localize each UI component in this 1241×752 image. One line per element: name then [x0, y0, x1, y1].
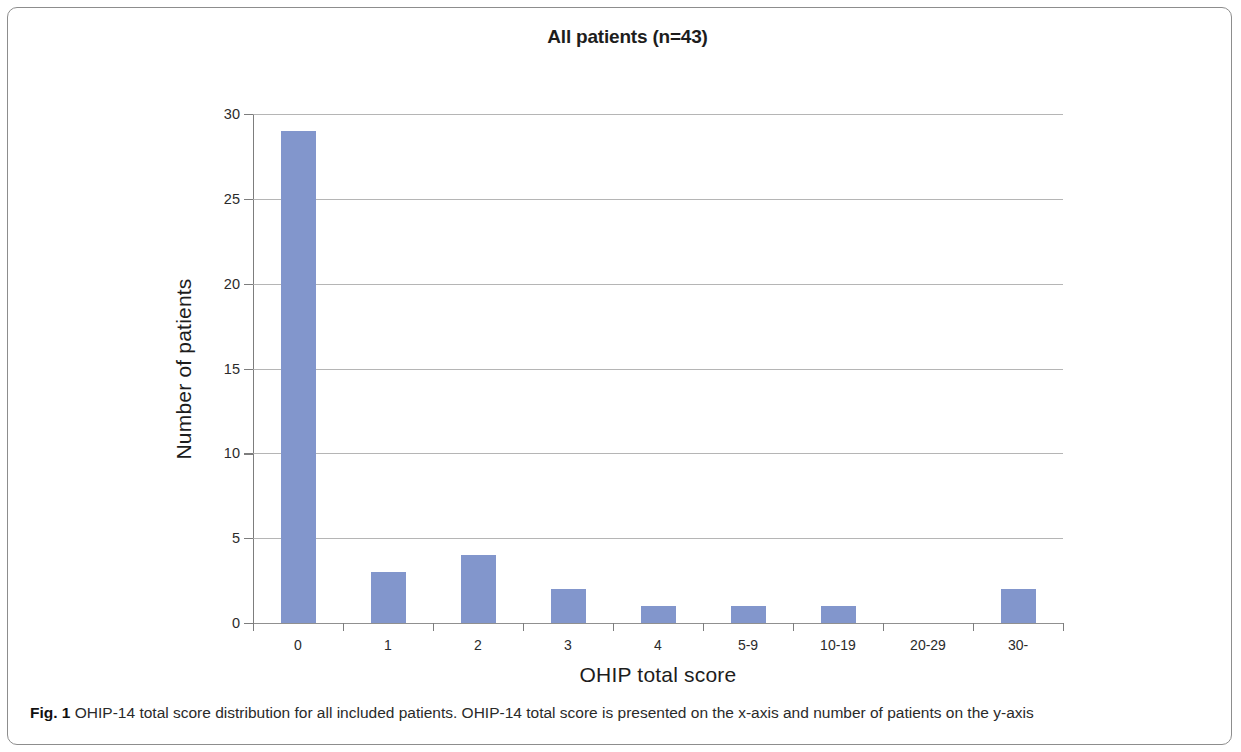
x-axis-tick [343, 623, 344, 631]
y-axis-tick [244, 538, 253, 539]
gridline [253, 538, 1063, 539]
y-axis-tick [244, 114, 253, 115]
chart-title: All patients (n=43) [8, 26, 1233, 48]
chart-title-text: All patients (n=43) [547, 26, 707, 47]
y-axis-tick [244, 453, 253, 454]
gridline [253, 369, 1063, 370]
x-axis-tick-label: 20-29 [910, 637, 946, 653]
y-axis-title-text: Number of patients [172, 278, 196, 459]
gridline [253, 199, 1063, 200]
bar [1001, 589, 1036, 623]
y-axis-tick-label: 15 [224, 361, 240, 377]
bar [281, 131, 316, 623]
y-axis-tick [244, 369, 253, 370]
y-axis-tick-label: 0 [232, 615, 240, 631]
x-axis-tick [703, 623, 704, 631]
x-axis-tick-label: 4 [654, 637, 662, 653]
x-axis-tick-label: 30- [1008, 637, 1028, 653]
x-axis-tick-label: 3 [564, 637, 572, 653]
x-axis-tick [523, 623, 524, 631]
bar [461, 555, 496, 623]
gridline [253, 114, 1063, 115]
gridline [253, 284, 1063, 285]
y-axis-tick [244, 284, 253, 285]
plot-area: 051015202530 012345-910-1920-2930- [253, 114, 1063, 623]
figure-card: All patients (n=43) Number of patients 0… [7, 7, 1232, 745]
bar [821, 606, 856, 623]
x-axis-title-text: OHIP total score [580, 663, 737, 686]
bar [551, 589, 586, 623]
figure-caption: Fig. 1 OHIP-14 total score distribution … [30, 700, 1195, 725]
gridline [253, 453, 1063, 454]
y-axis-tick [244, 623, 253, 624]
x-axis-tick-label: 5-9 [738, 637, 758, 653]
x-axis-tick-label: 10-19 [820, 637, 856, 653]
chart-area: All patients (n=43) Number of patients 0… [8, 8, 1233, 691]
bar [641, 606, 676, 623]
x-axis-tick [613, 623, 614, 631]
figure-caption-text: OHIP-14 total score distribution for all… [70, 704, 1033, 721]
y-axis-tick-label: 25 [224, 191, 240, 207]
x-axis-tick-label: 2 [474, 637, 482, 653]
figure-caption-label: Fig. 1 [30, 704, 70, 721]
y-axis-tick [244, 199, 253, 200]
y-axis-tick-label: 5 [232, 530, 240, 546]
x-axis-tick [1063, 623, 1064, 631]
y-axis-title: Number of patients [168, 114, 200, 623]
bar [371, 572, 406, 623]
x-axis-tick [253, 623, 254, 631]
y-axis-tick-label: 20 [224, 276, 240, 292]
bar [731, 606, 766, 623]
x-axis-tick [973, 623, 974, 631]
x-axis-tick [433, 623, 434, 631]
y-axis-tick-label: 30 [224, 106, 240, 122]
x-axis-baseline [253, 623, 1063, 624]
x-axis-tick-label: 1 [384, 637, 392, 653]
x-axis-tick [793, 623, 794, 631]
x-axis-tick [883, 623, 884, 631]
x-axis-tick-label: 0 [294, 637, 302, 653]
y-axis-tick-label: 10 [224, 445, 240, 461]
x-axis-title: OHIP total score [253, 663, 1063, 687]
